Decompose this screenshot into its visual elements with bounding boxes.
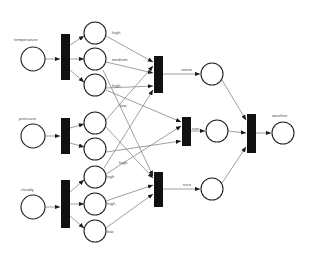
place-storm[interactable] — [201, 63, 223, 85]
transition-t_rain[interactable] — [182, 117, 191, 146]
place-label-rain: rain — [192, 127, 199, 131]
place-cloud_low[interactable] — [84, 220, 106, 242]
place-cloud_med[interactable] — [84, 193, 106, 215]
arc-cloud_med-to-t_nice — [106, 185, 153, 201]
place-label-pressure: pressure — [19, 117, 36, 121]
place-label-cloud_low: low — [107, 230, 114, 234]
place-label-cloud_med: high — [107, 202, 115, 206]
transition-t_weather[interactable] — [247, 114, 256, 153]
place-label-storm: storm — [181, 68, 192, 72]
place-nice[interactable] — [201, 178, 223, 200]
place-rain[interactable] — [206, 120, 228, 142]
place-temp_medium[interactable] — [84, 48, 106, 70]
arc-t_cloudy-to-cloud_low — [70, 216, 84, 228]
place-temp_high[interactable] — [84, 22, 106, 44]
arc-rain-to-t_weather — [228, 131, 246, 133]
place-pressure[interactable] — [21, 124, 45, 148]
place-weather[interactable] — [272, 122, 294, 144]
arc-nice-to-t_weather — [222, 147, 246, 183]
place-label-weather: weather — [272, 114, 288, 118]
place-label-temperature: temperature — [14, 38, 38, 42]
place-label-cloudy: cloudy — [21, 188, 34, 192]
transition-t_cloudy[interactable] — [61, 180, 70, 228]
arc-cloud_high-to-t_storm — [104, 90, 153, 168]
place-pres_high[interactable] — [84, 112, 106, 134]
arc-pres_high-to-t_nice — [106, 127, 153, 178]
transition-t_nice[interactable] — [154, 172, 163, 207]
arc-t_temperature-to-temp_high — [70, 36, 84, 45]
place-cloudy[interactable] — [21, 195, 45, 219]
arc-temp_low-to-t_rain — [106, 90, 181, 122]
place-pres_low[interactable] — [84, 138, 106, 160]
transition-t_pressure[interactable] — [61, 118, 70, 154]
arc-t_pressure-to-pres_high — [70, 124, 84, 128]
arc-storm-to-t_weather — [222, 80, 246, 120]
transition-t_storm[interactable] — [154, 56, 163, 93]
arc-t_temperature-to-temp_low — [70, 70, 84, 82]
petri-net-diagram: temperaturepressurecloudyhighmediumhighl… — [0, 0, 317, 261]
place-label-temp_medium: medium — [112, 58, 128, 62]
place-label-pres_high: low — [120, 104, 127, 108]
arc-temp_medium-to-t_storm — [106, 62, 153, 73]
arc-cloud_low-to-t_nice — [106, 194, 153, 228]
place-temp_low[interactable] — [84, 74, 106, 96]
place-label-cloud_high: high — [106, 175, 114, 179]
place-label-temp_high: high — [112, 31, 120, 35]
place-temperature[interactable] — [21, 47, 45, 71]
place-label-nice: nice — [183, 183, 191, 187]
place-cloud_high[interactable] — [84, 166, 106, 188]
arc-t_pressure-to-pres_low — [70, 143, 84, 147]
place-label-pres_low: high — [119, 161, 127, 165]
petri-net-canvas — [0, 0, 317, 261]
arc-t_cloudy-to-cloud_high — [70, 180, 84, 192]
place-label-temp_low: high — [112, 84, 120, 88]
transition-t_temperature[interactable] — [61, 34, 70, 80]
